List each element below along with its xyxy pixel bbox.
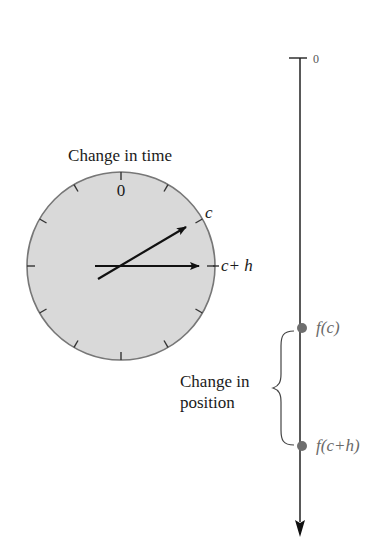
point-f-c-plus-h-label: f(c+h) [316, 436, 360, 455]
change-in-time-position-diagram: Change in time 0 c c+ h 0 f(c) f(c+h) Ch… [0, 0, 391, 557]
clock-zero-label: 0 [117, 181, 126, 200]
clock: 0 c c+ h [27, 172, 253, 360]
axis-down-arrow-icon [295, 520, 305, 537]
axis-origin-label: 0 [313, 52, 319, 66]
hand-c-plus-h-label: c+ h [221, 256, 253, 275]
hand-c-label: c [205, 203, 213, 222]
point-f-c-label: f(c) [316, 318, 340, 337]
change-brace-icon [273, 331, 294, 445]
brace-label-line2: position [180, 393, 235, 412]
clock-title: Change in time [68, 146, 172, 165]
brace-label-line1: Change in [180, 372, 250, 391]
point-f-c [297, 323, 307, 333]
point-f-c-plus-h [297, 441, 307, 451]
